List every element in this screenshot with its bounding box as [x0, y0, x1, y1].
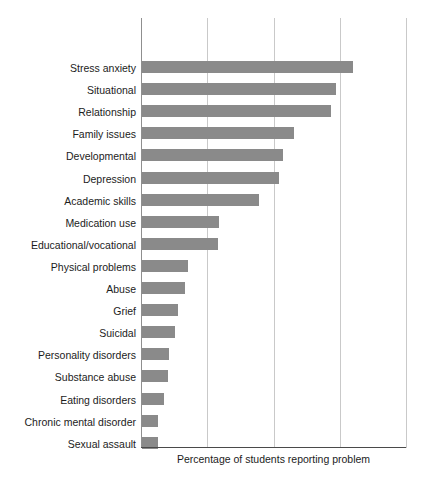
category-label: Substance abuse: [0, 371, 136, 383]
bar: [142, 370, 168, 382]
bar-row: [142, 61, 353, 73]
category-label: Physical problems: [0, 261, 136, 273]
category-label: Developmental: [0, 150, 136, 162]
bar: [142, 61, 353, 73]
bar: [142, 415, 158, 427]
category-label: Academic skills: [0, 195, 136, 207]
x-axis-title: Percentage of students reporting problem: [141, 452, 406, 466]
bar: [142, 216, 219, 228]
bar-row: [142, 304, 178, 316]
bar: [142, 127, 294, 139]
bar: [142, 149, 283, 161]
bar-row: [142, 348, 169, 360]
category-label: Grief: [0, 305, 136, 317]
category-label: Educational/vocational: [0, 239, 136, 251]
category-label: Relationship: [0, 106, 136, 118]
bar-row: [142, 127, 294, 139]
bar-row: [142, 238, 218, 250]
category-label: Medication use: [0, 217, 136, 229]
category-label: Stress anxiety: [0, 62, 136, 74]
bar-row: [142, 194, 259, 206]
category-label: Sexual assault: [0, 438, 136, 450]
bar-row: [142, 282, 185, 294]
bar-row: [142, 172, 279, 184]
bar-row: [142, 326, 175, 338]
category-label: Suicidal: [0, 327, 136, 339]
bar: [142, 326, 175, 338]
bar: [142, 105, 331, 117]
bar: [142, 348, 169, 360]
bar-chart: Stress anxietySituationalRelationshipFam…: [0, 0, 437, 482]
bar: [142, 393, 164, 405]
gridline-60: [406, 18, 407, 448]
bar-row: [142, 393, 164, 405]
category-label: Eating disorders: [0, 394, 136, 406]
plot-area: [141, 18, 406, 448]
bar-row: [142, 105, 331, 117]
category-label: Chronic mental disorder: [0, 416, 136, 428]
bar-row: [142, 260, 188, 272]
category-label: Personality disorders: [0, 349, 136, 361]
category-axis-labels: Stress anxietySituationalRelationshipFam…: [0, 18, 136, 448]
bar-series: [141, 18, 406, 448]
bar: [142, 304, 178, 316]
bar: [142, 83, 336, 95]
x-axis-line: [141, 447, 406, 448]
bar: [142, 194, 259, 206]
bar-row: [142, 370, 168, 382]
bar-row: [142, 216, 219, 228]
bar-row: [142, 415, 158, 427]
category-label: Abuse: [0, 283, 136, 295]
bar: [142, 238, 218, 250]
bar: [142, 282, 185, 294]
category-label: Situational: [0, 84, 136, 96]
category-label: Family issues: [0, 128, 136, 140]
bar-row: [142, 83, 336, 95]
category-label: Depression: [0, 173, 136, 185]
bar: [142, 172, 279, 184]
bar: [142, 260, 188, 272]
bar-row: [142, 149, 283, 161]
